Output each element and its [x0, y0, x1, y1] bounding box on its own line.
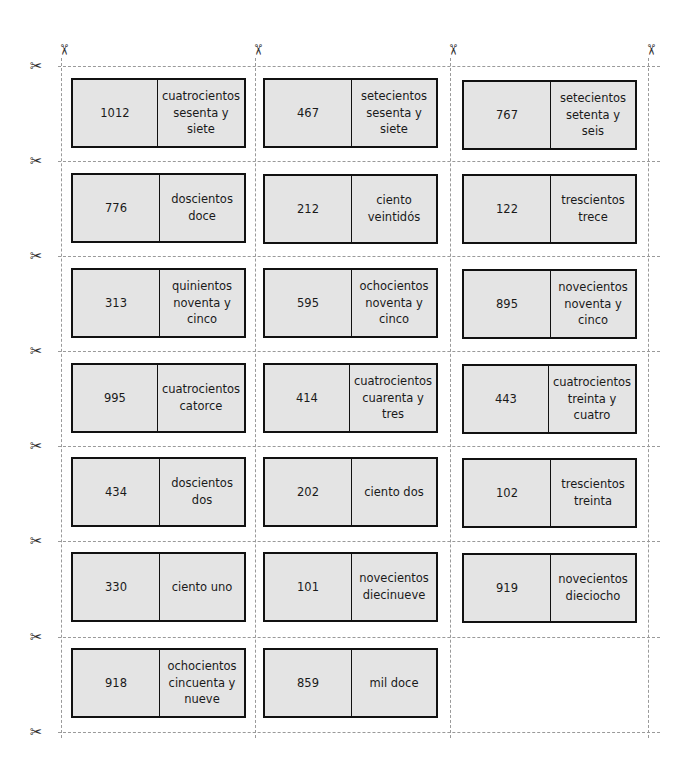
card-number: 1012 — [73, 80, 158, 146]
card-number: 443 — [464, 366, 549, 432]
cut-guide-vertical — [450, 58, 451, 738]
cut-guide-horizontal — [58, 446, 660, 447]
card-words: ciento uno — [160, 554, 244, 620]
card-number: 434 — [73, 459, 160, 525]
match-card: 919 novecientos dieciocho — [462, 553, 637, 623]
card-number: 313 — [73, 270, 160, 336]
match-card: 101 novecientos diecinueve — [263, 552, 438, 622]
cut-guide-horizontal — [58, 732, 660, 733]
match-card: 595 ochocientos noventa y cinco — [263, 268, 438, 338]
card-words: cuatrocientos catorce — [158, 365, 244, 431]
card-number: 895 — [464, 271, 551, 337]
card-words: cuatrocientos cuarenta y tres — [350, 365, 436, 431]
cut-guide-horizontal — [58, 541, 660, 542]
card-words: ciento dos — [352, 459, 436, 525]
card-words: novecientos noventa y cinco — [551, 271, 635, 337]
match-card: 995 cuatrocientos catorce — [71, 363, 246, 433]
card-number: 776 — [73, 175, 160, 241]
cut-guide-horizontal — [58, 66, 660, 67]
match-card: 202 ciento dos — [263, 457, 438, 527]
card-words: quinientos noventa y cinco — [160, 270, 244, 336]
card-number: 414 — [265, 365, 350, 431]
card-number: 101 — [265, 554, 352, 620]
scissors-icon: ✂ — [30, 59, 52, 73]
match-card: 767 setecientos setenta y seis — [462, 80, 637, 150]
scissors-icon: ✂ — [30, 249, 52, 263]
card-words: cuatrocientos treinta y cuatro — [549, 366, 635, 432]
card-words: doscientos doce — [160, 175, 244, 241]
scissors-icon: ✂ — [51, 43, 71, 57]
card-number: 202 — [265, 459, 352, 525]
match-card: 1012 cuatrocientos sesenta y siete — [71, 78, 246, 148]
card-words: cuatrocientos sesenta y siete — [158, 80, 244, 146]
card-words: ciento veintidós — [352, 176, 436, 242]
match-card: 313 quinientos noventa y cinco — [71, 268, 246, 338]
match-card: 918 ochocientos cincuenta y nueve — [71, 648, 246, 718]
card-words: mil doce — [352, 650, 436, 716]
match-card: 859 mil doce — [263, 648, 438, 718]
scissors-icon: ✂ — [30, 154, 52, 168]
match-card: 467 setecientos sesenta y siete — [263, 78, 438, 148]
card-number: 122 — [464, 176, 551, 242]
cut-guide-vertical — [255, 58, 256, 738]
cut-guide-horizontal — [58, 637, 660, 638]
match-card: 895 novecientos noventa y cinco — [462, 269, 637, 339]
match-card: 434 doscientos dos — [71, 457, 246, 527]
match-card: 102 trescientos treinta — [462, 458, 637, 528]
card-words: ochocientos noventa y cinco — [352, 270, 436, 336]
scissors-icon: ✂ — [440, 43, 460, 57]
match-card: 212 ciento veintidós — [263, 174, 438, 244]
card-number: 102 — [464, 460, 551, 526]
card-words: setecientos setenta y seis — [551, 82, 635, 148]
match-card: 776 doscientos doce — [71, 173, 246, 243]
cut-guide-horizontal — [58, 161, 660, 162]
scissors-icon: ✂ — [30, 439, 52, 453]
scissors-icon: ✂ — [245, 43, 265, 57]
card-words: trescientos treinta — [551, 460, 635, 526]
scissors-icon: ✂ — [638, 43, 658, 57]
cut-guide-vertical — [648, 58, 649, 738]
card-number: 467 — [265, 80, 352, 146]
card-words: doscientos dos — [160, 459, 244, 525]
card-words: novecientos diecinueve — [352, 554, 436, 620]
card-number: 330 — [73, 554, 160, 620]
cut-guide-horizontal — [58, 351, 660, 352]
cutout-sheet: ✂ ✂ ✂ ✂ ✂ ✂ ✂ ✂ ✂ ✂ ✂ ✂ 1012 cuatrocient… — [0, 0, 692, 773]
card-number: 595 — [265, 270, 352, 336]
card-number: 919 — [464, 555, 551, 621]
match-card: 414 cuatrocientos cuarenta y tres — [263, 363, 438, 433]
card-number: 918 — [73, 650, 160, 716]
scissors-icon: ✂ — [30, 725, 52, 739]
scissors-icon: ✂ — [30, 630, 52, 644]
card-number: 859 — [265, 650, 352, 716]
card-words: setecientos sesenta y siete — [352, 80, 436, 146]
card-number: 767 — [464, 82, 551, 148]
scissors-icon: ✂ — [30, 534, 52, 548]
cut-guide-horizontal — [58, 256, 660, 257]
cut-guide-vertical — [61, 58, 62, 738]
card-words: ochocientos cincuenta y nueve — [160, 650, 244, 716]
match-card: 443 cuatrocientos treinta y cuatro — [462, 364, 637, 434]
card-number: 212 — [265, 176, 352, 242]
card-words: trescientos trece — [551, 176, 635, 242]
card-number: 995 — [73, 365, 158, 431]
match-card: 122 trescientos trece — [462, 174, 637, 244]
card-words: novecientos dieciocho — [551, 555, 635, 621]
match-card: 330 ciento uno — [71, 552, 246, 622]
scissors-icon: ✂ — [30, 344, 52, 358]
